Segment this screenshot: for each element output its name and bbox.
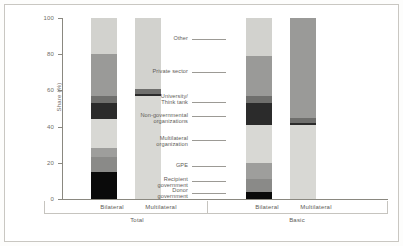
legend-label-think-tank: Think tank <box>102 99 188 105</box>
legend-leader-private-sector <box>192 72 226 73</box>
y-axis-line <box>62 18 63 199</box>
bar-segment <box>246 56 272 96</box>
y-tick-label-100: 100 <box>28 15 54 22</box>
bar-segment <box>246 96 272 103</box>
stacked-bar-inner <box>290 18 316 199</box>
y-tick-100 <box>58 18 62 19</box>
bar-segment <box>246 125 272 163</box>
group-sep-left <box>44 201 45 214</box>
bar-segment <box>246 192 272 199</box>
legend-label-donor-gov-2: government <box>102 193 188 199</box>
legend-leader-gpe <box>192 166 226 167</box>
group-label-total: Total <box>82 217 192 223</box>
chart-figure: 100 80 60 40 20 0 Share (%) Bilateral Mu… <box>0 0 403 246</box>
y-tick-label-80: 80 <box>28 51 54 58</box>
group-sep-mid <box>207 201 208 214</box>
stacked-bar <box>135 18 161 199</box>
stacked-bar <box>91 18 117 199</box>
y-tick-label-60: 60 <box>28 87 54 94</box>
y-tick-label-20: 20 <box>28 160 54 167</box>
y-tick-label-0: 0 <box>28 196 54 203</box>
group-label-basic: Basic <box>242 217 352 223</box>
bar-segment <box>290 125 316 199</box>
y-tick-0 <box>58 199 62 200</box>
group-axis-line <box>44 213 388 214</box>
stacked-bar-inner <box>135 18 161 199</box>
stacked-bar-inner <box>246 18 272 199</box>
bar-segment <box>246 179 272 192</box>
legend-label-ngo-2: organizations <box>86 118 188 124</box>
plot-area: 100 80 60 40 20 0 Share (%) Bilateral Mu… <box>62 18 388 213</box>
bar-segment <box>290 18 316 118</box>
stacked-bar <box>246 18 272 199</box>
legend-label-other: Other <box>112 35 188 41</box>
y-axis-label: Share (%) <box>56 52 62 142</box>
legend-leader-ngo <box>192 116 226 117</box>
stacked-bar <box>290 18 316 199</box>
bar-segment <box>246 18 272 56</box>
bar-segment <box>91 148 117 157</box>
y-tick-label-40: 40 <box>28 124 54 131</box>
x-label-basic-multilateral: Multilateral <box>281 204 351 210</box>
y-tick-20 <box>58 163 62 164</box>
legend-label-multilateral-org-2: organization <box>102 141 188 147</box>
legend-leader-other <box>192 39 226 40</box>
legend-label-private-sector: Private sector <box>102 68 188 74</box>
bar-segment <box>246 163 272 179</box>
bar-segment <box>246 103 272 125</box>
legend-leader-donor-gov <box>192 193 226 194</box>
x-label-total-multilateral: Multilateral <box>126 204 196 210</box>
legend-leader-recipient-gov <box>192 181 226 182</box>
legend-label-gpe: GPE <box>112 162 188 168</box>
legend-leader-multilateral-org <box>192 140 226 141</box>
legend-leader-university <box>192 102 226 103</box>
group-sep-right <box>387 201 388 214</box>
stacked-bar-inner <box>91 18 117 199</box>
bar-segment <box>135 18 161 89</box>
bar-segment <box>91 54 117 96</box>
